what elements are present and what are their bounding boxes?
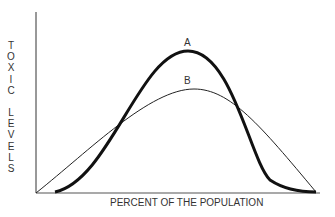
curve-a-label: A (184, 37, 191, 48)
y-axis-label: T O X I C L E V E L S (5, 40, 17, 174)
y-label-char: V (5, 129, 17, 140)
diagram-canvas: A B (0, 0, 335, 217)
y-label-spacer (5, 96, 17, 107)
y-label-char: X (5, 62, 17, 73)
y-label-char: C (5, 85, 17, 96)
y-label-char: E (5, 141, 17, 152)
y-label-char: T (5, 40, 17, 51)
y-label-char: L (5, 107, 17, 118)
y-label-char: S (5, 163, 17, 174)
curve-a (55, 51, 316, 192)
curve-b-label: B (184, 75, 191, 86)
y-label-char: L (5, 152, 17, 163)
x-axis-label-text: PERCENT OF THE POPULATION (110, 197, 263, 208)
y-label-char: E (5, 118, 17, 129)
y-label-char: I (5, 74, 17, 85)
curve-b (36, 89, 316, 193)
y-label-char: O (5, 51, 17, 62)
